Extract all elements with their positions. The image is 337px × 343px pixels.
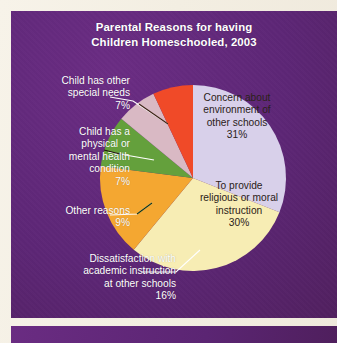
slice-label-dissatisfaction-line-3: at other schools <box>14 278 176 290</box>
slice-label-dissatisfaction-line-2: academic instruction <box>14 265 176 277</box>
slice-label-religious-instruction-line-2: religious or moral <box>183 192 295 204</box>
slice-label-concern-environment: Concern about environment of other schoo… <box>183 92 291 142</box>
slice-label-concern-environment-line-3: other schools <box>183 117 291 129</box>
slice-value-special-needs: 7% <box>18 100 130 112</box>
slice-label-religious-instruction: To provide religious or moral instructio… <box>183 180 295 230</box>
slice-label-health-condition-line-1: Child has a <box>8 126 130 138</box>
slice-value-health-condition: 7% <box>8 176 130 188</box>
slice-label-health-condition-line-3: mental health <box>8 151 130 163</box>
slice-label-concern-environment-line-1: Concern about <box>183 92 291 104</box>
slice-label-special-needs-line-2: special needs <box>18 87 130 99</box>
slice-label-dissatisfaction-line-1: Dissatisfaction with <box>14 253 176 265</box>
slice-label-religious-instruction-line-1: To provide <box>183 180 295 192</box>
slice-value-religious-instruction: 30% <box>183 217 295 229</box>
slice-label-health-condition-line-2: physical or <box>8 138 130 150</box>
slice-label-health-condition: Child has a physical or mental health co… <box>8 126 130 188</box>
slice-value-dissatisfaction: 16% <box>14 290 176 302</box>
slice-label-special-needs: Child has other special needs 7% <box>18 75 130 112</box>
slice-label-other-reasons: Other reasons 9% <box>8 205 130 230</box>
slice-label-concern-environment-line-2: environment of <box>183 104 291 116</box>
slice-value-concern-environment: 31% <box>183 129 291 141</box>
slice-label-religious-instruction-line-3: instruction <box>183 205 295 217</box>
slice-label-special-needs-line-1: Child has other <box>18 75 130 87</box>
slice-label-other-reasons-line-1: Other reasons <box>8 205 130 217</box>
slice-label-health-condition-line-4: condition <box>8 163 130 175</box>
slice-value-other-reasons: 9% <box>8 217 130 229</box>
slice-label-dissatisfaction: Dissatisfaction with academic instructio… <box>14 253 176 303</box>
pie-chart-figure: Parental Reasons for having Children Hom… <box>0 0 337 343</box>
